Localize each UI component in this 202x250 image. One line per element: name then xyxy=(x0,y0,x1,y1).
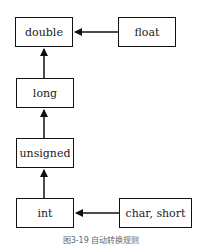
node-char-short-label: char, short xyxy=(126,207,186,220)
node-float-label: float xyxy=(135,26,160,39)
node-char-short: char, short xyxy=(119,198,192,228)
node-double: double xyxy=(15,17,73,47)
node-float: float xyxy=(118,17,176,47)
node-int: int xyxy=(16,198,74,228)
node-double-label: double xyxy=(25,26,63,39)
node-unsigned: unsigned xyxy=(16,138,74,168)
node-int-label: int xyxy=(37,207,52,220)
figure-caption: 图3-19 自动转换规则 xyxy=(0,234,202,245)
node-long-label: long xyxy=(33,87,57,100)
node-unsigned-label: unsigned xyxy=(19,147,70,160)
node-long: long xyxy=(16,78,74,108)
